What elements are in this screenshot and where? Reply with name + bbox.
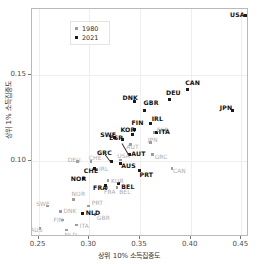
data-point xyxy=(116,186,119,189)
legend-marker-icon xyxy=(73,36,80,39)
point-label: BEL xyxy=(121,184,134,191)
point-label: DNK xyxy=(63,208,76,215)
point-label: NOR xyxy=(72,191,86,198)
legend-item-1980[interactable]: 1980 xyxy=(73,24,106,33)
point-label: NOR xyxy=(71,176,87,183)
plot-area: AUSSWEDNKFINNLDITANORPRTGBRDEUCHEIRLKORF… xyxy=(31,8,248,236)
point-label: JPN xyxy=(148,137,158,144)
gridline-vertical xyxy=(241,9,242,235)
point-label: USA xyxy=(230,12,245,19)
data-point xyxy=(107,179,110,182)
data-point xyxy=(87,205,90,208)
x-axis-tick-label: 0.35 xyxy=(131,240,147,248)
y-axis-label: 상위 1% 소득집중도 xyxy=(3,62,13,158)
point-label: GBR xyxy=(144,100,159,107)
point-label: ESP xyxy=(109,135,123,142)
point-label: CAN xyxy=(185,80,200,87)
point-label: FIN xyxy=(53,217,63,224)
point-label: PRT xyxy=(92,200,103,207)
scatter-chart-figure: AUSSWEDNKFINNLDITANORPRTGBRDEUCHEIRLKORF… xyxy=(0,0,259,264)
point-label: GRC xyxy=(155,154,168,161)
x-axis-tick xyxy=(139,236,140,239)
data-point xyxy=(186,88,189,91)
point-label: DEU xyxy=(68,157,81,164)
point-label: IRL xyxy=(152,116,163,123)
point-label: AUS xyxy=(121,163,136,170)
point-label: PRT xyxy=(139,172,153,179)
data-point xyxy=(72,198,75,201)
legend-marker-icon xyxy=(73,27,80,30)
x-axis-tick-label: 0.30 xyxy=(80,240,96,248)
x-axis-tick-label: 0.45 xyxy=(233,240,249,248)
data-point xyxy=(168,98,171,101)
data-point xyxy=(151,153,154,156)
data-point xyxy=(143,109,146,112)
data-point xyxy=(75,224,78,227)
data-point xyxy=(65,229,68,232)
point-label: JPN xyxy=(220,105,232,112)
point-label: KOR xyxy=(120,127,135,134)
data-point xyxy=(81,212,84,215)
y-axis-tick xyxy=(28,160,31,161)
point-label: NLD xyxy=(64,232,77,236)
point-label: ITA xyxy=(80,223,89,230)
x-axis-tick xyxy=(190,236,191,239)
point-label: FIN xyxy=(131,120,143,127)
x-axis-label: 상위 10% 소득집중도 xyxy=(0,250,259,260)
x-axis-tick xyxy=(88,236,89,239)
gridline-horizontal xyxy=(32,75,247,76)
gridline-horizontal xyxy=(32,161,247,162)
gridline-vertical xyxy=(191,9,192,235)
legend-label: 1980 xyxy=(82,25,98,33)
point-label: IRL xyxy=(99,166,109,173)
point-label: NLD xyxy=(86,210,101,217)
point-label: SWE xyxy=(36,201,50,208)
point-label: AUT xyxy=(131,151,145,158)
point-label: FRA xyxy=(93,185,107,192)
x-axis-tick xyxy=(240,236,241,239)
point-label: CAN xyxy=(173,168,186,175)
data-point xyxy=(59,210,62,213)
legend: 1980 2021 xyxy=(70,21,110,45)
point-label: CHE xyxy=(84,168,98,175)
point-label: DNK xyxy=(122,95,138,102)
x-axis-tick xyxy=(38,236,39,239)
point-label: DEU xyxy=(166,90,181,97)
x-axis-tick-label: 0.25 xyxy=(30,240,46,248)
point-label: AUS xyxy=(31,227,43,234)
data-point xyxy=(149,122,152,125)
legend-label: 2021 xyxy=(82,34,98,42)
x-axis-tick-label: 0.40 xyxy=(182,240,198,248)
point-label: ITA xyxy=(159,129,170,136)
y-axis-tick xyxy=(28,74,31,75)
legend-item-2021[interactable]: 2021 xyxy=(73,33,106,42)
